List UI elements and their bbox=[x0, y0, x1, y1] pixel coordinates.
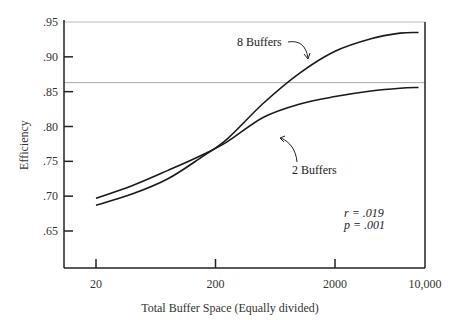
series-label-8-buffers: 8 Buffers bbox=[237, 35, 282, 49]
y-tick-label: .90 bbox=[43, 50, 58, 64]
y-axis-title: Efficiency bbox=[17, 120, 31, 170]
x-tick-label: 10,000 bbox=[409, 277, 442, 291]
y-tick-label: .95 bbox=[43, 15, 58, 29]
y-tick-label: .70 bbox=[43, 189, 58, 203]
stat-p-value: p = .001 bbox=[343, 218, 385, 232]
series-line-8-buffers bbox=[96, 32, 419, 205]
y-ticks: .95.90.85.80.75.70.65 bbox=[43, 15, 73, 238]
x-ticks: 20200200010,000 bbox=[90, 259, 442, 291]
x-tick-label: 2000 bbox=[323, 277, 347, 291]
x-tick-label: 200 bbox=[207, 277, 225, 291]
x-axis-title: Total Buffer Space (Equally divided) bbox=[141, 301, 319, 315]
y-tick-label: .75 bbox=[43, 154, 58, 168]
series-group bbox=[96, 32, 419, 205]
series-line-2-buffers bbox=[96, 87, 419, 198]
efficiency-chart: .95.90.85.80.75.70.65 20200200010,000 Ef… bbox=[0, 0, 457, 320]
y-tick-label: .80 bbox=[43, 120, 58, 134]
y-tick-label: .85 bbox=[43, 85, 58, 99]
series-label-2-buffers: 2 Buffers bbox=[292, 163, 337, 177]
x-tick-label: 20 bbox=[90, 277, 102, 291]
y-tick-label: .65 bbox=[43, 224, 58, 238]
